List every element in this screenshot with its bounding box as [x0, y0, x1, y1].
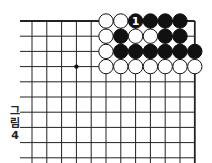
white-stone: [99, 59, 113, 73]
white-stone: [188, 59, 202, 73]
white-stone: [173, 59, 187, 73]
white-stone: [128, 59, 142, 73]
black-stone: [114, 44, 128, 58]
black-stone: [114, 29, 128, 43]
black-stone: 1: [128, 14, 142, 28]
white-stone: [143, 29, 157, 43]
black-stone: [173, 14, 187, 28]
white-stone: [114, 59, 128, 73]
black-stone: [173, 44, 187, 58]
black-stone: [158, 14, 172, 28]
white-stone: [114, 14, 128, 28]
black-stone: [188, 44, 202, 58]
white-stone: [143, 59, 157, 73]
move-number-label: 1: [132, 15, 140, 28]
caption-char-3: 4: [8, 130, 22, 142]
white-stone: [128, 29, 142, 43]
figure-caption: 그 림 4: [8, 106, 22, 142]
star-points: [74, 64, 78, 68]
black-stone: [143, 44, 157, 58]
white-stone: [99, 44, 113, 58]
white-stone: [99, 29, 113, 43]
black-stone: [158, 29, 172, 43]
black-stone: [173, 29, 187, 43]
white-stone: [158, 59, 172, 73]
black-stone: [128, 44, 142, 58]
go-board-diagram: 1: [0, 0, 212, 163]
white-stone: [99, 14, 113, 28]
black-stone: [158, 44, 172, 58]
star-point: [74, 64, 78, 68]
stones-layer: 1: [99, 14, 202, 74]
black-stone: [143, 14, 157, 28]
